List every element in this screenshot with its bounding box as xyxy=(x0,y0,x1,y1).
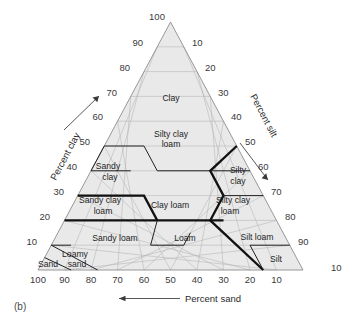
arrow-head-sand-icon xyxy=(119,296,126,301)
tick-silt-50: 50 xyxy=(245,136,256,147)
region-label-silty-clay-loam-right-2: loam xyxy=(221,206,240,216)
tick-clay-80: 80 xyxy=(119,62,130,73)
region-label-sandy-clay-loam-1: Sandy clay xyxy=(79,195,122,205)
arrow-head-silt-icon xyxy=(262,173,268,180)
region-label-sand: Sand xyxy=(38,259,58,269)
tick-silt-60: 60 xyxy=(258,161,269,172)
region-label-loam: Loam xyxy=(174,233,196,243)
region-label-silty-clay-1: Silty xyxy=(230,165,247,175)
tick-silt-40: 40 xyxy=(231,111,242,122)
tick-clay-40: 40 xyxy=(66,161,77,172)
region-label-sandy-clay-2: clay xyxy=(102,172,118,182)
tick-clay-30: 30 xyxy=(53,186,64,197)
region-label-silty-clay-loam-upper-1: Silty clay xyxy=(154,129,189,139)
tick-sand-70: 70 xyxy=(112,274,123,285)
region-label-silt-loam: Silt loam xyxy=(241,232,274,242)
tick-silt-20: 20 xyxy=(205,62,216,73)
region-label-clay-loam: Clay loam xyxy=(151,200,189,210)
soil-texture-triangle-figure: 100 90 80 70 60 50 40 30 20 10 10 20 30 … xyxy=(0,0,342,319)
tick-sand-60: 60 xyxy=(139,274,150,285)
axis-title-clay: Percent clay xyxy=(48,130,82,182)
region-label-sandy-clay-1: Sandy xyxy=(96,161,121,171)
tick-sand-20: 20 xyxy=(245,274,256,285)
tick-sand-80: 80 xyxy=(86,274,97,285)
ternary-diagram-svg: 100 90 80 70 60 50 40 30 20 10 10 20 30 … xyxy=(0,0,342,319)
region-label-sandy-clay-loam-2: loam xyxy=(94,206,113,216)
axis-title-silt: Percent silt xyxy=(248,92,280,139)
region-label-loamy-sand-2: sand xyxy=(68,259,87,269)
tick-clay-70: 70 xyxy=(106,87,117,98)
tick-clay-10: 10 xyxy=(26,236,37,247)
region-label-silty-clay-loam-right-1: Silty clay xyxy=(216,195,251,205)
region-label-sandy-loam: Sandy loam xyxy=(92,233,137,243)
tick-silt-70: 70 xyxy=(271,186,282,197)
tick-sand-100: 100 xyxy=(30,274,46,285)
tick-silt-90: 90 xyxy=(298,236,309,247)
axis-title-sand: Percent sand xyxy=(185,293,241,304)
region-label-silty-clay-loam-upper-2: loam xyxy=(162,139,181,149)
tick-sand-10: 10 xyxy=(271,274,282,285)
tick-clay-100: 100 xyxy=(149,11,165,22)
tick-sand-50: 50 xyxy=(165,274,176,285)
region-label-clay: Clay xyxy=(162,93,180,103)
tick-silt-30: 30 xyxy=(218,87,229,98)
tick-silt-10: 10 xyxy=(192,37,203,48)
region-label-silt: Silt xyxy=(270,254,283,264)
tick-sand-90: 90 xyxy=(59,274,70,285)
tick-silt-100: 10 xyxy=(331,262,342,273)
tick-clay-20: 20 xyxy=(39,211,50,222)
region-label-loamy-sand-1: Loamy xyxy=(62,249,88,259)
tick-clay-90: 90 xyxy=(132,37,143,48)
axis-title-sand-group: Percent sand xyxy=(119,293,241,304)
tick-sand-40: 40 xyxy=(192,274,203,285)
tick-silt-80: 80 xyxy=(285,211,296,222)
region-label-silty-clay-2: clay xyxy=(230,176,246,186)
tick-clay-60: 60 xyxy=(92,111,103,122)
figure-caption: (b) xyxy=(14,301,26,312)
tick-sand-30: 30 xyxy=(218,274,229,285)
